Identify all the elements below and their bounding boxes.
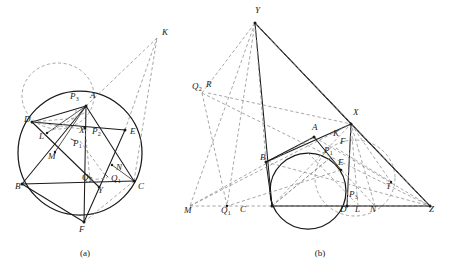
point-label-Y: Y	[255, 5, 261, 15]
point-label-Q1: Q1	[111, 173, 121, 184]
dashed-RX	[208, 93, 351, 124]
node-B-a	[21, 183, 24, 186]
segment-AB	[266, 137, 314, 162]
node-N-a	[111, 164, 113, 166]
point-label-R: R	[205, 79, 212, 89]
segment-AC	[86, 106, 134, 181]
dashed-FT	[336, 148, 391, 182]
figure-b-caption: (b)	[315, 248, 326, 258]
point-label-M: M	[47, 151, 56, 161]
dashed-MA	[190, 137, 314, 206]
node-E-b	[340, 169, 343, 172]
point-label-A: A	[311, 122, 318, 132]
point-label-F: F	[78, 224, 85, 234]
point-label-N: N	[115, 162, 123, 172]
dashed-Q2Z	[202, 93, 430, 206]
point-label-B: B	[15, 181, 21, 191]
dashed-YQ1	[227, 23, 255, 206]
dashed-BZ	[266, 162, 430, 206]
point-label-Z: Z	[429, 204, 435, 214]
point-label-K: K	[332, 128, 340, 138]
point-label-E: E	[129, 126, 136, 136]
node-C-b	[271, 205, 274, 208]
label-layer: P3AKDELXP2P1MNQ2Q1BCYFYXQ2RAKFBP1ETP3MQ1…	[15, 5, 435, 234]
segment-DA	[32, 106, 86, 122]
point-label-Y: Y	[98, 185, 104, 195]
point-label-K: K	[161, 27, 169, 37]
point-label-F: F	[339, 136, 346, 146]
point-label-M: M	[183, 205, 192, 215]
point-label-P1: P1	[72, 138, 82, 149]
point-label-Q2: Q2	[82, 172, 92, 183]
point-label-L: L	[38, 131, 44, 141]
segment-AF	[84, 106, 86, 222]
main-circle-a	[18, 91, 142, 215]
dashed-YM	[190, 23, 255, 206]
point-label-X: X	[78, 125, 85, 135]
figure-page: P3AKDELXP2P1MNQ2Q1BCYFYXQ2RAKFBP1ETP3MQ1…	[0, 0, 450, 276]
segment-YC	[255, 23, 272, 206]
figure-a-canvas: P3AKDELXP2P1MNQ2Q1BCYFYXQ2RAKFBP1ETP3MQ1…	[0, 0, 450, 276]
point-label-A: A	[89, 90, 96, 100]
node-X-b	[350, 123, 353, 126]
dashed-Q2Q1	[202, 93, 227, 206]
point-label-P3: P3	[69, 91, 79, 102]
node-A-a	[85, 105, 88, 108]
node-E-a	[124, 129, 127, 132]
point-label-D: D	[23, 114, 31, 124]
aux-dashed-circle-a	[22, 63, 94, 129]
node-L-a	[46, 132, 48, 134]
point-label-P3: P3	[348, 189, 358, 200]
point-label-B: B	[260, 152, 266, 162]
segment-FE	[84, 130, 125, 222]
point-label-D: D	[339, 204, 347, 214]
point-label-X: X	[352, 107, 359, 117]
figure-a-caption: (a)	[80, 248, 90, 258]
incircle-b	[270, 153, 346, 229]
dashed-EQ1	[227, 170, 341, 206]
point-label-C: C	[240, 204, 247, 214]
node-A-b	[313, 136, 316, 139]
node-D-a	[31, 121, 34, 124]
figure-b-group	[190, 22, 432, 230]
node-Y-b	[254, 22, 257, 25]
dashed-Q2Q1	[90, 178, 107, 180]
point-label-Q1: Q1	[221, 205, 231, 216]
node-C-a	[133, 180, 136, 183]
point-label-C: C	[138, 181, 145, 191]
tick-Q1	[105, 174, 108, 177]
dashed-FC	[84, 181, 134, 222]
dashed-AK	[86, 38, 157, 106]
point-label-Q2: Q2	[192, 81, 202, 92]
dashed-TX	[351, 124, 391, 182]
point-label-E: E	[337, 157, 344, 167]
segment-BF	[22, 184, 84, 222]
point-label-P1: P1	[323, 145, 333, 156]
point-label-N: N	[369, 204, 377, 214]
point-label-L: L	[354, 204, 360, 214]
dashed-CK	[134, 38, 157, 181]
